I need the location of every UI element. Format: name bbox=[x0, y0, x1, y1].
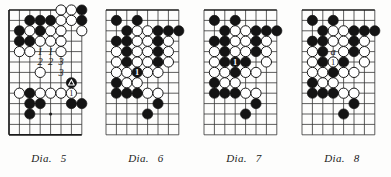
black-stone[interactable] bbox=[359, 26, 369, 36]
white-stone[interactable] bbox=[220, 78, 230, 88]
black-stone[interactable] bbox=[220, 88, 230, 98]
black-stone[interactable] bbox=[349, 99, 359, 109]
black-stone[interactable] bbox=[241, 109, 251, 119]
black-stone[interactable] bbox=[370, 26, 380, 36]
white-stone[interactable] bbox=[153, 67, 163, 77]
white-stone[interactable] bbox=[339, 47, 349, 57]
white-stone[interactable] bbox=[241, 26, 251, 36]
numbered-white-stone[interactable]: 1 bbox=[328, 57, 338, 67]
white-stone[interactable] bbox=[230, 26, 240, 36]
black-stone[interactable] bbox=[251, 26, 261, 36]
white-stone[interactable] bbox=[359, 36, 369, 46]
black-stone[interactable] bbox=[220, 36, 230, 46]
white-stone[interactable] bbox=[251, 67, 261, 77]
black-stone[interactable] bbox=[111, 15, 121, 25]
black-stone[interactable] bbox=[261, 26, 271, 36]
black-stone[interactable] bbox=[328, 67, 338, 77]
black-stone[interactable] bbox=[251, 36, 261, 46]
black-stone[interactable] bbox=[14, 26, 24, 36]
black-stone[interactable] bbox=[122, 36, 132, 46]
black-stone[interactable] bbox=[220, 26, 230, 36]
white-stone[interactable] bbox=[328, 78, 338, 88]
black-stone[interactable] bbox=[14, 36, 24, 46]
white-stone[interactable] bbox=[56, 47, 66, 57]
black-stone[interactable] bbox=[272, 26, 282, 36]
white-stone[interactable] bbox=[132, 26, 142, 36]
black-stone[interactable] bbox=[230, 88, 240, 98]
black-stone[interactable] bbox=[318, 88, 328, 98]
black-stone[interactable] bbox=[209, 36, 219, 46]
black-stone[interactable] bbox=[328, 15, 338, 25]
black-stone[interactable] bbox=[122, 26, 132, 36]
black-stone[interactable] bbox=[349, 26, 359, 36]
black-stone[interactable] bbox=[220, 57, 230, 67]
white-stone[interactable] bbox=[56, 88, 66, 98]
white-stone[interactable] bbox=[56, 36, 66, 46]
black-stone[interactable] bbox=[122, 57, 132, 67]
black-stone[interactable] bbox=[349, 47, 359, 57]
black-stone[interactable] bbox=[318, 36, 328, 46]
triangle-marked-black-stone[interactable] bbox=[66, 78, 76, 88]
black-stone[interactable] bbox=[153, 26, 163, 36]
white-stone[interactable] bbox=[307, 67, 317, 77]
white-stone[interactable] bbox=[132, 78, 142, 88]
white-stone[interactable] bbox=[56, 5, 66, 15]
black-stone[interactable] bbox=[153, 36, 163, 46]
black-stone[interactable] bbox=[153, 47, 163, 57]
black-stone[interactable] bbox=[111, 36, 121, 46]
white-stone[interactable] bbox=[56, 26, 66, 36]
white-stone[interactable] bbox=[111, 47, 121, 57]
white-stone[interactable] bbox=[143, 26, 153, 36]
black-stone[interactable] bbox=[230, 15, 240, 25]
white-stone[interactable] bbox=[209, 67, 219, 77]
black-stone[interactable] bbox=[307, 36, 317, 46]
white-stone[interactable] bbox=[318, 78, 328, 88]
black-stone[interactable] bbox=[209, 88, 219, 98]
white-stone[interactable] bbox=[339, 67, 349, 77]
white-stone[interactable] bbox=[307, 47, 317, 57]
black-stone[interactable] bbox=[209, 15, 219, 25]
white-stone[interactable] bbox=[328, 26, 338, 36]
white-stone[interactable] bbox=[25, 47, 35, 57]
numbered-black-stone[interactable]: 1 bbox=[230, 57, 240, 67]
white-stone[interactable] bbox=[261, 57, 271, 67]
black-stone[interactable] bbox=[220, 47, 230, 57]
white-stone[interactable] bbox=[241, 67, 251, 77]
black-stone[interactable] bbox=[77, 15, 87, 25]
black-stone[interactable] bbox=[35, 99, 45, 109]
white-stone[interactable] bbox=[209, 57, 219, 67]
black-stone[interactable] bbox=[66, 99, 76, 109]
white-stone[interactable] bbox=[163, 57, 173, 67]
black-stone[interactable] bbox=[307, 88, 317, 98]
black-stone[interactable] bbox=[25, 99, 35, 109]
white-stone[interactable] bbox=[143, 47, 153, 57]
black-stone[interactable] bbox=[25, 88, 35, 98]
black-stone[interactable] bbox=[122, 88, 132, 98]
white-stone[interactable] bbox=[143, 67, 153, 77]
go-board-7[interactable]: 1 bbox=[195, 0, 293, 152]
white-stone[interactable] bbox=[349, 88, 359, 98]
black-stone[interactable] bbox=[132, 15, 142, 25]
black-stone[interactable] bbox=[111, 88, 121, 98]
white-stone[interactable] bbox=[241, 88, 251, 98]
white-stone[interactable] bbox=[122, 78, 132, 88]
white-stone[interactable] bbox=[153, 88, 163, 98]
white-stone[interactable] bbox=[209, 47, 219, 57]
black-stone[interactable] bbox=[25, 15, 35, 25]
black-stone[interactable] bbox=[251, 99, 261, 109]
white-stone[interactable] bbox=[56, 15, 66, 25]
black-stone[interactable] bbox=[132, 88, 142, 98]
white-stone[interactable] bbox=[339, 88, 349, 98]
black-stone[interactable] bbox=[209, 78, 219, 88]
white-stone[interactable] bbox=[359, 57, 369, 67]
white-stone[interactable] bbox=[143, 88, 153, 98]
black-stone[interactable] bbox=[318, 26, 328, 36]
white-stone[interactable] bbox=[359, 47, 369, 57]
black-stone[interactable] bbox=[241, 57, 251, 67]
black-stone[interactable] bbox=[349, 36, 359, 46]
black-stone[interactable] bbox=[25, 36, 35, 46]
white-stone[interactable] bbox=[122, 67, 132, 77]
white-stone[interactable] bbox=[46, 26, 56, 36]
white-stone[interactable] bbox=[220, 67, 230, 77]
black-stone[interactable] bbox=[174, 26, 184, 36]
